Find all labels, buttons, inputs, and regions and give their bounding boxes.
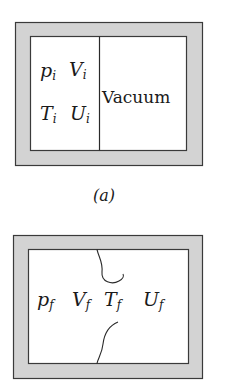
free-expansion-diagram: pi Vi Ti Ui Vacuum (a) pf Vf Tf Uf xyxy=(0,0,229,389)
caption-a: (a) xyxy=(93,186,115,205)
panel-a: pi Vi Ti Ui Vacuum (a) xyxy=(16,23,203,206)
panel-b: pf Vf Tf Uf xyxy=(14,236,203,379)
vacuum-label: Vacuum xyxy=(101,87,170,107)
